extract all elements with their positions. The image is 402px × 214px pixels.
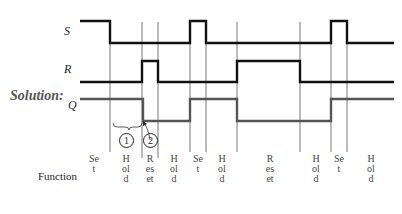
function-hold: Hold — [311, 154, 321, 184]
solution-label: Solution: — [10, 88, 64, 104]
function-hold: Hold — [169, 154, 179, 184]
function-set: Set — [193, 154, 203, 174]
function-hold: Hold — [217, 154, 227, 184]
annotation-2: 2 — [143, 133, 158, 148]
function-set: Set — [89, 154, 99, 174]
function-hold: Hold — [366, 154, 376, 184]
function-reset: Reset — [145, 154, 155, 184]
function-row-label: Function — [38, 170, 77, 182]
r-label: R — [64, 62, 71, 77]
function-set: Set — [334, 154, 344, 174]
s-label: S — [64, 24, 70, 39]
function-reset: Reset — [265, 154, 275, 184]
q-label: Q — [68, 98, 77, 113]
annotation-1: 1 — [119, 133, 134, 148]
function-hold: Hold — [121, 154, 131, 184]
brace — [113, 123, 142, 130]
